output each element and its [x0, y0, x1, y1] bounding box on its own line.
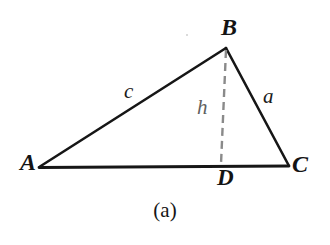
base-ac-line — [39, 166, 289, 168]
vertex-label-c: C — [292, 152, 308, 176]
scan-speck — [186, 34, 188, 36]
side-label-c: c — [124, 81, 133, 102]
figure-caption: (a) — [0, 200, 330, 221]
vertex-label-b: B — [221, 15, 237, 39]
vertex-label-d: D — [217, 166, 234, 189]
geometry-figure: A B C D c a h (a) — [0, 0, 330, 245]
side-label-a: a — [263, 86, 274, 107]
altitude-h-dashed-line — [221, 50, 226, 164]
vertex-label-a: A — [20, 150, 36, 174]
altitude-label-h: h — [197, 97, 208, 118]
side-a-line — [226, 48, 289, 165]
